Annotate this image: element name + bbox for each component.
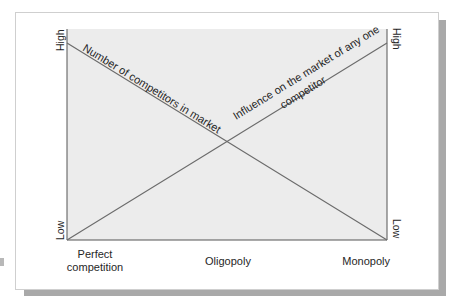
- left-axis-low-label: Low: [55, 221, 66, 240]
- right-axis-low-label: Low: [392, 219, 403, 238]
- x-label-perfect-competition: Perfect competition: [60, 248, 130, 274]
- left-axis-high-label: High: [55, 29, 66, 51]
- x-label-oligopoly: Oligopoly: [193, 255, 263, 268]
- x-label-perfect-line1: Perfect: [60, 248, 130, 261]
- x-label-perfect-line2: competition: [60, 261, 130, 274]
- x-label-monopoly: Monopoly: [336, 255, 390, 268]
- right-axis-high-label: High: [392, 28, 403, 50]
